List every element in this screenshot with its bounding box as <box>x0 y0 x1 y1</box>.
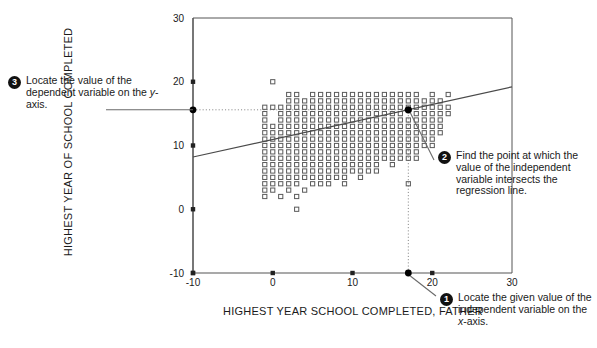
scatter-marker <box>271 150 275 154</box>
scatter-marker <box>271 131 275 135</box>
scatter-marker <box>263 150 267 154</box>
scatter-marker <box>295 175 299 179</box>
scatter-marker <box>382 124 386 128</box>
scatter-marker <box>319 131 323 135</box>
scatter-marker <box>390 118 394 122</box>
scatter-marker <box>263 156 267 160</box>
x-tick-label-10: 10 <box>347 277 359 288</box>
scatter-marker <box>374 169 378 173</box>
scatter-marker <box>382 105 386 109</box>
scatter-marker <box>326 99 330 103</box>
scatter-marker <box>422 99 426 103</box>
scatter-marker <box>287 137 291 141</box>
scatter-marker <box>303 143 307 147</box>
scatter-marker <box>326 156 330 160</box>
scatter-marker <box>319 150 323 154</box>
scatter-marker <box>438 131 442 135</box>
scatter-marker <box>311 175 315 179</box>
y-tick-label--10: -10 <box>170 268 185 279</box>
scatter-marker <box>279 175 283 179</box>
scatter-marker <box>422 112 426 116</box>
scatter-marker <box>358 150 362 154</box>
scatter-marker <box>366 112 370 116</box>
callout-1-badge: 1 <box>440 293 453 306</box>
scatter-marker <box>334 99 338 103</box>
scatter-marker <box>406 92 410 96</box>
guide-lines-group <box>193 110 408 273</box>
scatter-marker <box>303 163 307 167</box>
scatter-marker <box>279 182 283 186</box>
scatter-marker <box>446 112 450 116</box>
scatter-marker <box>303 118 307 122</box>
scatter-marker <box>279 194 283 198</box>
scatter-marker <box>271 169 275 173</box>
scatter-marker <box>350 99 354 103</box>
scatter-marker <box>311 105 315 109</box>
scatter-marker <box>430 99 434 103</box>
y-tick-label-30: 30 <box>173 13 185 24</box>
scatter-marker <box>382 92 386 96</box>
scatter-marker <box>311 169 315 173</box>
scatter-marker <box>303 112 307 116</box>
scatter-marker <box>342 105 346 109</box>
scatter-marker <box>438 118 442 122</box>
scatter-marker <box>263 163 267 167</box>
scatter-marker <box>263 175 267 179</box>
scatter-marker <box>287 99 291 103</box>
scatter-marker <box>319 137 323 141</box>
scatter-marker <box>366 150 370 154</box>
scatter-marker <box>319 124 323 128</box>
x-tick-20 <box>430 271 434 275</box>
scatter-marker <box>319 118 323 122</box>
scatter-marker <box>295 118 299 122</box>
scatter-marker <box>342 143 346 147</box>
scatter-marker <box>350 112 354 116</box>
scatter-marker <box>303 105 307 109</box>
scatter-marker <box>438 124 442 128</box>
scatter-marker <box>334 92 338 96</box>
scatter-marker <box>350 143 354 147</box>
scatter-marker <box>287 175 291 179</box>
scatter-marker <box>422 118 426 122</box>
scatter-marker <box>358 156 362 160</box>
scatter-marker <box>287 143 291 147</box>
scatter-marker <box>414 92 418 96</box>
scatter-marker <box>326 169 330 173</box>
scatter-marker <box>342 163 346 167</box>
scatter-marker <box>326 131 330 135</box>
callout-3-text: Locate the value of the dependent variab… <box>26 75 160 110</box>
scatter-marker <box>263 112 267 116</box>
scatter-marker <box>430 124 434 128</box>
scatter-marker <box>358 163 362 167</box>
scatter-marker <box>342 131 346 135</box>
scatter-marker <box>398 131 402 135</box>
scatter-marker <box>319 182 323 186</box>
scatter-marker <box>414 99 418 103</box>
x-tick-label--10: -10 <box>186 277 201 288</box>
scatter-marker <box>271 143 275 147</box>
scatter-marker <box>366 156 370 160</box>
scatter-marker <box>414 143 418 147</box>
scatter-marker <box>287 150 291 154</box>
scatter-marker <box>295 99 299 103</box>
scatter-marker <box>374 150 378 154</box>
scatter-marker <box>319 143 323 147</box>
scatter-marker <box>350 156 354 160</box>
scatter-marker <box>319 163 323 167</box>
scatter-marker <box>342 169 346 173</box>
scatter-marker <box>398 92 402 96</box>
scatter-marker <box>271 188 275 192</box>
scatter-marker <box>303 137 307 141</box>
scatter-marker <box>287 182 291 186</box>
scatter-marker <box>279 163 283 167</box>
scatter-marker <box>279 131 283 135</box>
scatter-marker <box>414 150 418 154</box>
scatter-marker <box>295 124 299 128</box>
scatter-marker <box>366 105 370 109</box>
scatter-marker <box>295 156 299 160</box>
scatter-marker <box>366 163 370 167</box>
scatter-marker <box>334 169 338 173</box>
scatter-marker <box>398 105 402 109</box>
scatter-marker <box>303 188 307 192</box>
scatter-marker <box>398 118 402 122</box>
